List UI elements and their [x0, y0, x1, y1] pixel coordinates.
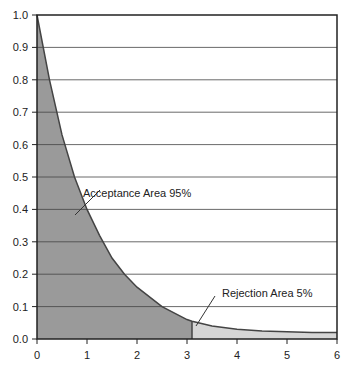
y-tick-label: 0.9: [13, 41, 28, 53]
x-tick-label: 0: [34, 349, 40, 361]
y-tick-label: 0.5: [13, 171, 28, 183]
rejection-leader-line: [196, 296, 215, 326]
chart: 0.00.10.20.30.40.50.60.70.80.91.0 012345…: [0, 0, 347, 371]
x-tick-label: 2: [134, 349, 140, 361]
x-tick-label: 5: [284, 349, 290, 361]
x-tick-label: 1: [84, 349, 90, 361]
y-tick-label: 0.0: [13, 333, 28, 345]
x-tick-label: 4: [234, 349, 240, 361]
y-tick-label: 0.8: [13, 74, 28, 86]
y-tick-label: 0.2: [13, 268, 28, 280]
y-tick-label: 0.6: [13, 139, 28, 151]
y-tick-label: 1.0: [13, 9, 28, 21]
rejection-region: [192, 321, 337, 339]
y-tick-label: 0.3: [13, 236, 28, 248]
y-tick-label: 0.4: [13, 203, 28, 215]
acceptance-area-label: Acceptance Area 95%: [83, 187, 191, 199]
x-tick-label: 6: [334, 349, 340, 361]
x-tick-label: 3: [184, 349, 190, 361]
rejection-area-label: Rejection Area 5%: [222, 287, 313, 299]
y-tick-label: 0.1: [13, 301, 28, 313]
y-tick-label: 0.7: [13, 106, 28, 118]
